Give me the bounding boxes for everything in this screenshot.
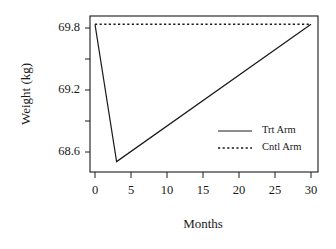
x-tick-label-10: 10 [161, 183, 174, 197]
x-axis-title: Months [183, 216, 223, 231]
x-tick-label-25: 25 [269, 183, 282, 197]
legend-label-trt-arm: Trt Arm [262, 124, 296, 135]
legend-label-cntl-arm: Cntl Arm [262, 141, 301, 152]
x-tick-label-5: 5 [128, 183, 134, 197]
y-axis-title: Weight (kg) [18, 63, 33, 125]
x-tick-label-0: 0 [92, 183, 98, 197]
x-tick-label-20: 20 [233, 183, 246, 197]
chart-figure: 69.8 69.2 68.6 0 5 10 15 20 25 30 Weight… [0, 0, 336, 249]
y-tick-label-bottom: 68.6 [58, 144, 80, 158]
y-axis-ticks [85, 28, 90, 152]
x-tick-label-30: 30 [305, 183, 318, 197]
y-tick-label-middle: 69.2 [58, 82, 80, 96]
weight-over-months-line-chart: 69.8 69.2 68.6 0 5 10 15 20 25 30 Weight… [0, 0, 336, 249]
x-tick-label-15: 15 [197, 183, 210, 197]
y-tick-label-top: 69.8 [58, 20, 80, 34]
x-axis-ticks [95, 172, 311, 178]
